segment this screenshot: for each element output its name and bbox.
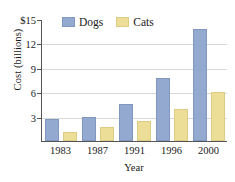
y-tick-label: 12 <box>26 39 37 50</box>
bar-cats-2000 <box>211 92 225 141</box>
y-tick-mark <box>37 118 41 119</box>
bar-group: 1983 <box>42 20 79 141</box>
y-tick-label: $15 <box>20 15 36 26</box>
x-axis-title: Year <box>41 162 227 173</box>
bar-dogs-1991 <box>119 104 133 141</box>
bar-group: 2000 <box>190 20 227 141</box>
bar-dogs-1983 <box>45 119 59 141</box>
bar-cats-1987 <box>100 127 114 141</box>
bar-dogs-2000 <box>193 29 207 141</box>
y-tick-label: 6 <box>31 88 36 99</box>
bar-group: 1996 <box>153 20 190 141</box>
bar-dogs-1987 <box>82 117 96 141</box>
bar-chart: Cost (billions) Dogs Cats 36912$15 19831… <box>0 0 235 182</box>
y-tick-label: 3 <box>31 112 36 123</box>
bar-group: 1991 <box>116 20 153 141</box>
y-tick-mark <box>37 20 41 21</box>
y-axis-title: Cost (billions) <box>12 12 23 108</box>
bar-cats-1983 <box>63 132 77 141</box>
bar-cats-1991 <box>137 121 151 141</box>
bar-dogs-1996 <box>156 78 170 141</box>
x-axis-line <box>41 141 227 142</box>
bar-cats-1996 <box>174 109 188 141</box>
x-tick-label: 1983 <box>50 145 71 156</box>
x-tick-label: 2000 <box>198 145 219 156</box>
y-tick-mark <box>37 93 41 94</box>
bar-group: 1987 <box>79 20 116 141</box>
plot-area: 36912$15 19831987199119962000 <box>41 20 227 142</box>
x-tick-label: 1991 <box>124 145 145 156</box>
x-tick-label: 1987 <box>87 145 108 156</box>
bar-groups: 19831987199119962000 <box>42 20 227 141</box>
x-tick-label: 1996 <box>161 145 182 156</box>
y-tick-label: 9 <box>31 63 36 74</box>
y-tick-mark <box>37 69 41 70</box>
y-tick-mark <box>37 44 41 45</box>
